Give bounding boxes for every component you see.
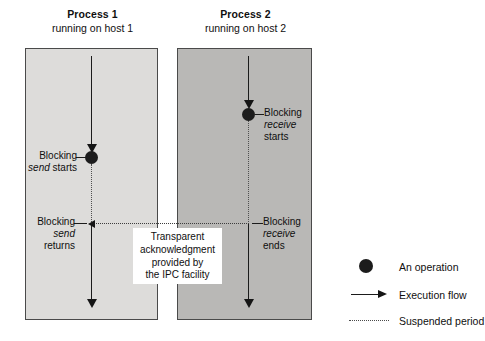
ipc-blocking-send-receive-diagram: Process 1 running on host 1 Process 2 ru… [0, 0, 485, 341]
label-blocking-send-returns-keyword: send [53, 228, 75, 239]
process-2-tick-receive-ends [252, 223, 263, 224]
label-blocking-receive-ends-line3: ends [263, 240, 285, 251]
acknowledgment-arrowhead [88, 220, 95, 228]
process-1-arrowhead-bottom [87, 299, 97, 308]
label-blocking-receive-starts: Blocking receive starts [264, 107, 324, 144]
legend-swatch-suspended-period [345, 312, 393, 328]
acknowledgment-dotted-connector [93, 223, 249, 224]
legend-label-execution-flow: Execution flow [399, 287, 467, 303]
process-2-header: Process 2 running on host 2 [163, 8, 328, 35]
legend-label-an-operation: An operation [399, 259, 459, 275]
process-2-execution-flow-bottom [248, 223, 249, 301]
legend-label-suspended-period: Suspended period [399, 313, 484, 329]
legend-swatch-execution-flow [345, 286, 393, 302]
label-blocking-send-starts-keyword: send [28, 162, 50, 173]
process-2-suspended-period [248, 121, 249, 224]
process-1-title: Process 1 [10, 8, 175, 21]
callout-line-2: acknowledgment [137, 244, 218, 257]
label-blocking-send-starts: Blocking send starts [6, 150, 77, 174]
legend-swatch-operation [345, 258, 393, 274]
process-2-arrowhead-bottom [244, 299, 254, 308]
legend: An operation Execution flow Suspended pe… [345, 258, 485, 330]
process-1-tick-send-starts [76, 157, 86, 158]
filled-circle-icon [359, 259, 373, 273]
operation-dot-blocking-send-starts [85, 151, 98, 164]
process-1-suspended-period [91, 164, 92, 224]
right-arrowhead-icon [378, 290, 387, 298]
label-blocking-send-starts-line2: starts [50, 162, 77, 173]
transparent-acknowledgment-callout: Transparent acknowledgment provided by t… [133, 228, 222, 284]
label-blocking-receive-ends-keyword: receive [263, 228, 295, 239]
label-blocking-send-returns-line1: Blocking [37, 216, 75, 227]
label-blocking-send-returns-line3: returns [44, 240, 75, 251]
label-blocking-receive-starts-line3: starts [264, 131, 288, 142]
label-blocking-send-returns: Blocking send returns [6, 216, 75, 253]
process-2-title: Process 2 [163, 8, 328, 21]
label-blocking-receive-ends: Blocking receive ends [263, 216, 323, 253]
process-1-header: Process 1 running on host 1 [10, 8, 175, 35]
process-2-execution-flow-top [248, 56, 249, 104]
callout-line-4: the IPC facility [137, 269, 218, 282]
callout-line-3: provided by [137, 257, 218, 270]
dotted-line-icon [349, 320, 389, 321]
callout-line-1: Transparent [137, 231, 218, 244]
process-1-subtitle: running on host 1 [10, 22, 175, 35]
process-1-tick-send-returns [74, 223, 87, 224]
label-blocking-send-starts-line1: Blocking [39, 150, 77, 161]
label-blocking-receive-ends-line1: Blocking [263, 216, 301, 227]
label-blocking-receive-starts-line1: Blocking [264, 107, 302, 118]
label-blocking-receive-starts-keyword: receive [264, 119, 296, 130]
process-2-tick-receive-starts [255, 114, 264, 115]
process-1-execution-flow-bottom [91, 223, 92, 301]
process-1-execution-flow-top [91, 56, 92, 148]
solid-line-icon [351, 294, 379, 295]
operation-dot-blocking-receive-starts [242, 108, 255, 121]
process-2-subtitle: running on host 2 [163, 22, 328, 35]
